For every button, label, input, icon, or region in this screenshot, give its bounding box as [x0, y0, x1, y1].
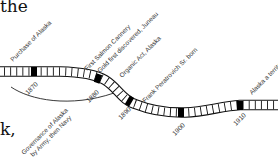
year-label-1910: 1910 — [232, 111, 248, 127]
governance-span-label: Governance of Alaska by Army, then Navy — [20, 106, 74, 158]
year-label-1900: 1900 — [171, 121, 187, 137]
event-labels: Purchase of Alaska First Salmon Cannery … — [9, 10, 278, 104]
decade-marker-1900 — [178, 108, 184, 117]
year-label-1880: 1880 — [85, 88, 101, 104]
event-label-alaska-territory: Alaska a territory — [248, 56, 278, 96]
timeline-diagram: 1870 1880 1890 1900 1910 Purchase of Ala… — [0, 0, 278, 158]
event-label-frank-peratrovich-born: Frank Peratrovich Sr. born — [141, 46, 199, 104]
governance-label-line1: Governance of Alaska — [20, 106, 69, 155]
ribbon-fill — [0, 72, 278, 113]
decade-marker-1870 — [31, 67, 37, 76]
event-label-purchase-of-alaska: Purchase of Alaska — [9, 19, 53, 63]
decade-marker-1910 — [237, 101, 243, 110]
year-label-1870: 1870 — [24, 80, 40, 96]
